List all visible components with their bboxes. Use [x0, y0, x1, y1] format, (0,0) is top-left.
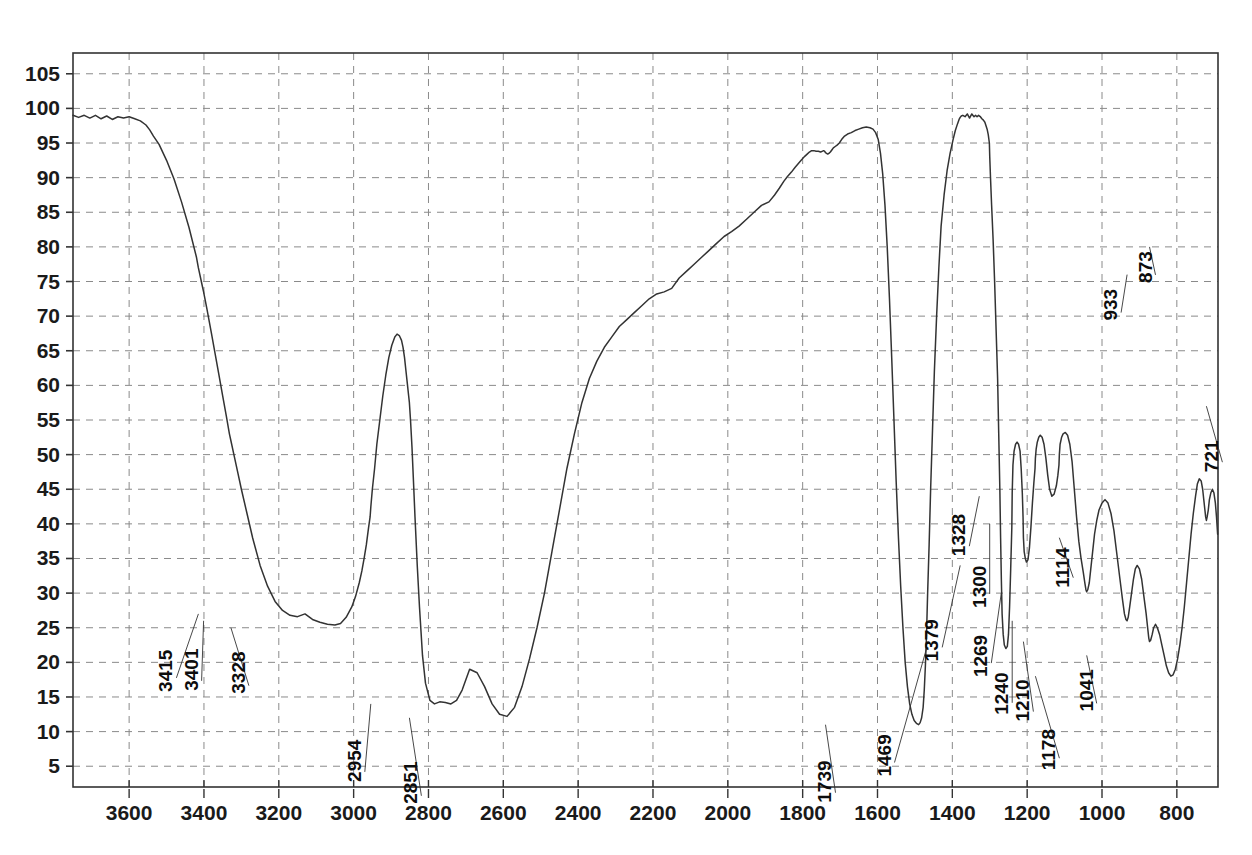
y-tick-label: 65 [37, 339, 61, 362]
chart-background [0, 0, 1252, 855]
x-tick-label: 1200 [1004, 801, 1051, 824]
y-tick-label: 30 [37, 581, 60, 604]
y-tick-label: 15 [37, 685, 61, 708]
x-tick-label: 3000 [330, 801, 377, 824]
peak-label-1328: 1328 [948, 514, 969, 556]
peak-label-1114: 1114 [1052, 547, 1073, 588]
peak-label-1178: 1178 [1038, 729, 1059, 770]
peak-label-933: 933 [1100, 289, 1121, 321]
peak-label-2851: 2851 [400, 761, 421, 804]
y-tick-label: 105 [25, 62, 60, 85]
x-tick-label: 1600 [854, 801, 901, 824]
x-tick-label: 800 [1159, 801, 1194, 824]
x-tick-label: 2600 [480, 801, 527, 824]
x-tick-label: 1400 [929, 801, 976, 824]
peak-label-3401: 3401 [181, 648, 202, 691]
y-tick-label: 25 [37, 616, 61, 639]
x-tick-label: 1000 [1079, 801, 1126, 824]
y-tick-label: 5 [48, 754, 60, 777]
peak-label-2954: 2954 [344, 739, 365, 782]
y-tick-label: 45 [37, 477, 61, 500]
x-tick-label: 2400 [555, 801, 602, 824]
y-tick-label: 70 [37, 304, 60, 327]
y-tick-label: 85 [37, 200, 61, 223]
y-tick-label: 95 [37, 131, 61, 154]
x-tick-label: 1800 [779, 801, 826, 824]
y-tick-label: 55 [37, 408, 61, 431]
y-tick-label: 75 [37, 270, 61, 293]
peak-label-3415: 3415 [155, 649, 176, 692]
x-tick-label: 2200 [630, 801, 677, 824]
peak-label-721: 721 [1201, 440, 1222, 472]
x-tick-label: 2000 [704, 801, 751, 824]
y-tick-label: 60 [37, 373, 60, 396]
y-tick-label: 90 [37, 166, 60, 189]
y-tick-label: 80 [37, 235, 60, 258]
y-tick-label: 35 [37, 546, 61, 569]
x-tick-label: 3600 [106, 801, 153, 824]
y-tick-label: 40 [37, 512, 60, 535]
y-tick-label: 10 [37, 720, 60, 743]
peak-label-1240: 1240 [991, 673, 1012, 715]
ir-spectrum-page: 5101520253035404550556065707580859095100… [0, 0, 1252, 855]
peak-label-1269: 1269 [970, 635, 991, 677]
peak-label-1739: 1739 [814, 760, 835, 802]
peak-label-3328: 3328 [228, 651, 249, 693]
y-tick-label: 50 [37, 443, 60, 466]
peak-label-1469: 1469 [874, 734, 895, 776]
x-tick-label: 3200 [255, 801, 302, 824]
peak-label-1300: 1300 [969, 566, 990, 608]
peak-label-1041: 1041 [1076, 669, 1097, 712]
ir-spectrum-chart: 5101520253035404550556065707580859095100… [0, 0, 1252, 855]
y-tick-label: 100 [25, 96, 60, 119]
y-tick-label: 20 [37, 650, 60, 673]
x-tick-label: 3400 [181, 801, 228, 824]
peak-label-873: 873 [1135, 251, 1156, 283]
peak-label-1379: 1379 [921, 619, 942, 661]
peak-label-1210: 1210 [1012, 679, 1033, 721]
